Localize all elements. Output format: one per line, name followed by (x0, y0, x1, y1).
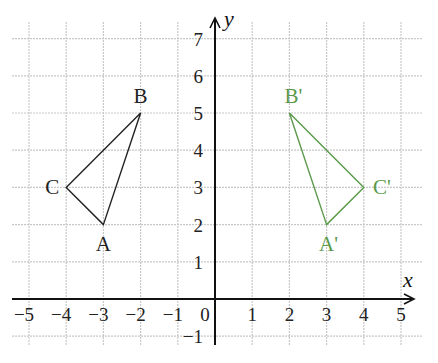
reflected-triangle (289, 113, 363, 225)
axes: xy (12, 6, 414, 345)
origin-label: 0 (200, 304, 210, 325)
vertex-label: C' (373, 175, 391, 199)
vertex-label: A' (319, 232, 338, 256)
x-tick-label: 3 (322, 304, 332, 325)
y-tick-label: 1 (194, 252, 204, 273)
y-tick-label: 5 (194, 103, 204, 124)
vertex-label: C (45, 175, 59, 199)
y-tick-label: 6 (194, 66, 204, 87)
y-tick-label: 7 (194, 29, 204, 50)
vertex-label: B (134, 84, 148, 108)
x-tick-label: −3 (88, 304, 108, 325)
y-tick-label: 3 (194, 177, 204, 198)
vertex-label: A (96, 232, 112, 256)
triangles: ABCA'B'C' (45, 84, 391, 256)
x-tick-label: 4 (359, 304, 369, 325)
x-tick-label: −5 (14, 304, 34, 325)
original-triangle (66, 113, 140, 225)
x-tick-label: −4 (51, 304, 72, 325)
y-tick-label: −1 (183, 326, 203, 347)
y-tick-label: 2 (194, 215, 204, 236)
y-axis-label: y (222, 6, 234, 31)
x-tick-label: 1 (247, 304, 257, 325)
x-tick-label: 2 (285, 304, 295, 325)
x-tick-label: 5 (396, 304, 406, 325)
y-tick-label: 4 (194, 140, 204, 161)
plot-canvas: xy −5−4−3−2−1123450−11234567 ABCA'B'C' (0, 0, 438, 363)
coordinate-grid-diagram: xy −5−4−3−2−1123450−11234567 ABCA'B'C' (0, 0, 438, 363)
x-tick-label: −1 (163, 304, 183, 325)
x-tick-label: −2 (125, 304, 145, 325)
vertex-label: B' (285, 84, 303, 108)
x-axis-label: x (402, 267, 413, 292)
